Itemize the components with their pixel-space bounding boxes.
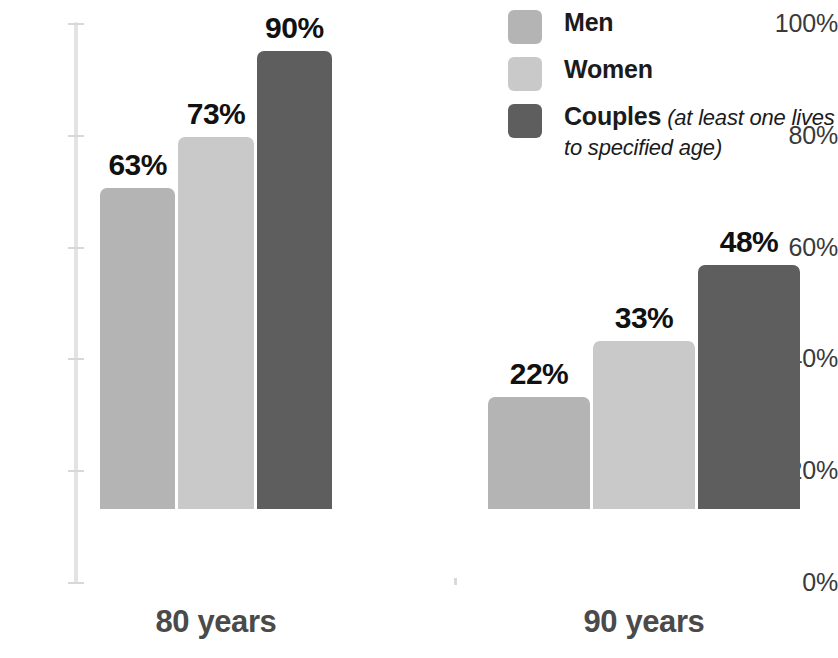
bar-value-label: 63%: [100, 148, 175, 182]
bar-couples-80[interactable]: 90%: [257, 51, 332, 509]
bar-slot: 73%: [178, 0, 253, 509]
legend-text-couples: Couples (at least one lives to specified…: [564, 102, 838, 161]
bar-value-label: 22%: [488, 357, 590, 391]
bar-chart: 100%80%60%40%20%0% 63% 73% 90%: [0, 0, 838, 658]
bar-value-label: 33%: [593, 301, 695, 335]
legend-label-men: Men: [564, 8, 613, 36]
bar-women-80[interactable]: 73%: [178, 137, 253, 509]
legend-swatch-men-icon: [508, 10, 542, 44]
baseline-tick: [454, 578, 457, 585]
bar-slot: 63%: [100, 0, 175, 509]
category-label-80-years: 80 years: [100, 604, 332, 640]
category-label-90-years: 90 years: [488, 604, 800, 640]
bar-value-label: 48%: [698, 225, 800, 259]
bar-value-label: 73%: [178, 97, 253, 131]
bar-men-80[interactable]: 63%: [100, 188, 175, 509]
legend-label-women: Women: [564, 55, 653, 83]
bar-value-label: 90%: [257, 11, 332, 45]
bar-men-90[interactable]: 22%: [488, 397, 590, 509]
legend-swatch-couples-icon: [508, 104, 542, 138]
legend-text-men: Men: [564, 8, 613, 38]
bar-women-90[interactable]: 33%: [593, 341, 695, 509]
legend: Men Women Couples (at least one lives to…: [508, 8, 838, 172]
bar-couples-90[interactable]: 48%: [698, 265, 800, 509]
legend-label-couples: Couples: [564, 102, 661, 130]
legend-item-couples[interactable]: Couples (at least one lives to specified…: [508, 102, 838, 161]
legend-item-women[interactable]: Women: [508, 55, 838, 91]
bar-slot: 90%: [257, 0, 332, 509]
legend-swatch-women-icon: [508, 57, 542, 91]
bar-group-80-years: 63% 73% 90%: [100, 0, 332, 509]
legend-item-men[interactable]: Men: [508, 8, 838, 44]
legend-text-women: Women: [564, 55, 653, 85]
